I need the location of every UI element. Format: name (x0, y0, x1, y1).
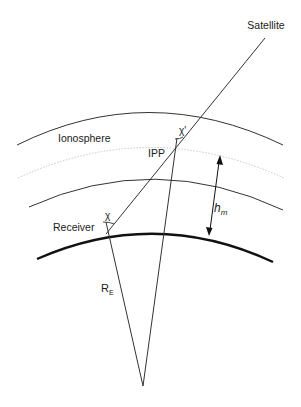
angle-chi-prime-arc (175, 137, 183, 139)
ionosphere-outer-arc (17, 113, 283, 146)
earth-radius-label-r: R (101, 282, 109, 294)
ipp-label: IPP (148, 147, 165, 159)
height-label: hm (214, 201, 228, 217)
angle-chi-arc (103, 222, 114, 224)
receiver-label: Receiver (53, 221, 95, 233)
chi-prime-label: χ' (179, 125, 186, 136)
radius-to-ipp (143, 138, 177, 386)
ionosphere-inner-arc (29, 179, 283, 210)
height-arrow-head-top (217, 155, 224, 165)
earth-radius-label-sub: E (109, 289, 114, 296)
height-arrow-line (210, 162, 219, 230)
radius-to-receiver (106, 222, 143, 386)
earth-radius-label: RE (101, 282, 114, 296)
line-of-sight (106, 38, 265, 234)
height-label-sub: m (221, 208, 228, 217)
ionosphere-geometry-diagram: Satellite Ionosphere IPP Receiver χ χ' h… (0, 0, 301, 407)
height-arrow-head-bottom (206, 227, 213, 236)
satellite-label: Satellite (247, 19, 285, 31)
ionosphere-label: Ionosphere (58, 132, 111, 144)
earth-surface-arc (37, 234, 273, 262)
chi-label: χ (105, 210, 111, 221)
